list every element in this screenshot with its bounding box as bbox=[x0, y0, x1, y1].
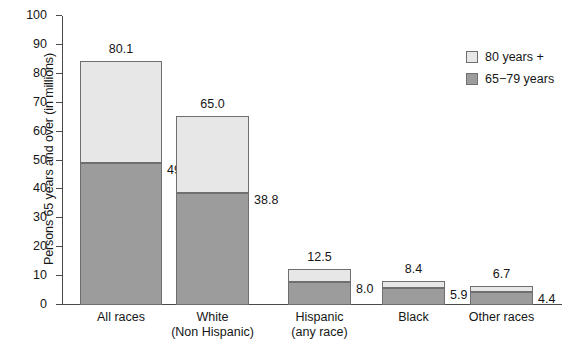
y-tick-label: 40 bbox=[33, 181, 47, 195]
y-tick-20: 20 bbox=[56, 246, 62, 247]
x-axis-label-line2: (Non Hispanic) bbox=[171, 325, 254, 340]
x-axis-label-line1: All races bbox=[97, 310, 145, 325]
legend-item-65-79: 65−79 years bbox=[466, 69, 554, 88]
legend-swatch-65-79 bbox=[466, 73, 478, 85]
x-axis-label-line1: White bbox=[171, 310, 254, 325]
bar-total-label: 6.7 bbox=[493, 267, 510, 281]
y-tick-50: 50 bbox=[56, 160, 62, 161]
bar-total-label: 65.0 bbox=[200, 97, 224, 111]
x-axis-label-3: Hispanic(any race) bbox=[291, 310, 347, 340]
bar-segment-65-79[interactable] bbox=[382, 288, 445, 305]
y-tick-30: 30 bbox=[56, 217, 62, 218]
x-axis-label-1: All races bbox=[97, 310, 145, 325]
bar-lower-segment-label: 8.0 bbox=[356, 282, 373, 296]
bar-segment-80-plus[interactable] bbox=[470, 286, 533, 293]
bar[interactable] bbox=[80, 61, 162, 305]
x-axis-label-line2: (any race) bbox=[291, 325, 347, 340]
y-tick-label: 20 bbox=[33, 239, 47, 253]
x-axis-label-2: White(Non Hispanic) bbox=[171, 310, 254, 340]
y-tick-label: 0 bbox=[40, 297, 47, 311]
y-tick-label: 70 bbox=[33, 95, 47, 109]
bar-lower-segment-label: 4.4 bbox=[538, 292, 555, 306]
bar-segment-80-plus[interactable] bbox=[80, 61, 162, 163]
legend-item-80-plus: 80 years + bbox=[466, 47, 554, 66]
bar-segment-65-79[interactable] bbox=[470, 292, 533, 305]
bar[interactable] bbox=[470, 286, 533, 305]
x-axis-label-line1: Hispanic bbox=[291, 310, 347, 325]
y-tick-label: 90 bbox=[33, 37, 47, 51]
bar-lower-segment-label: 38.8 bbox=[254, 193, 278, 207]
y-tick-label: 30 bbox=[33, 210, 47, 224]
bar-segment-80-plus[interactable] bbox=[288, 269, 351, 282]
bar-segment-65-79[interactable] bbox=[176, 193, 249, 305]
y-axis-line bbox=[62, 16, 63, 305]
legend-label-65-79: 65−79 years bbox=[485, 72, 554, 86]
bar[interactable] bbox=[176, 116, 249, 305]
y-tick-100: 100 bbox=[56, 15, 62, 16]
y-tick-40: 40 bbox=[56, 188, 62, 189]
bar-segment-80-plus[interactable] bbox=[176, 116, 249, 193]
y-tick-label: 10 bbox=[33, 268, 47, 282]
y-tick-label: 100 bbox=[26, 8, 47, 22]
bar-segment-80-plus[interactable] bbox=[382, 281, 445, 288]
y-tick-label: 60 bbox=[33, 124, 47, 138]
bar-total-label: 80.1 bbox=[109, 42, 133, 56]
x-axis-label-line1: Black bbox=[398, 310, 429, 325]
x-axis-label-4: Black bbox=[398, 310, 429, 325]
legend-label-80-plus: 80 years + bbox=[485, 50, 544, 64]
bar-total-label: 8.4 bbox=[405, 262, 422, 276]
legend: 80 years + 65−79 years bbox=[466, 47, 554, 91]
y-tick-70: 70 bbox=[56, 102, 62, 103]
y-tick-label: 50 bbox=[33, 153, 47, 167]
bar-segment-65-79[interactable] bbox=[288, 282, 351, 305]
x-axis-label-5: Other races bbox=[469, 310, 534, 325]
stacked-bar-chart: Persons 65 years and over (in millions) … bbox=[0, 0, 575, 352]
y-tick-90: 90 bbox=[56, 44, 62, 45]
bar[interactable] bbox=[382, 281, 445, 305]
y-tick-0: 0 bbox=[56, 304, 62, 305]
y-tick-10: 10 bbox=[56, 275, 62, 276]
bar[interactable] bbox=[288, 269, 351, 305]
bar-lower-segment-label: 5.9 bbox=[450, 288, 467, 302]
legend-swatch-80-plus bbox=[466, 51, 478, 63]
x-axis-label-line1: Other races bbox=[469, 310, 534, 325]
bar-segment-65-79[interactable] bbox=[80, 163, 162, 305]
y-tick-label: 80 bbox=[33, 66, 47, 80]
y-tick-80: 80 bbox=[56, 73, 62, 74]
bar-total-label: 12.5 bbox=[307, 250, 331, 264]
y-tick-60: 60 bbox=[56, 131, 62, 132]
